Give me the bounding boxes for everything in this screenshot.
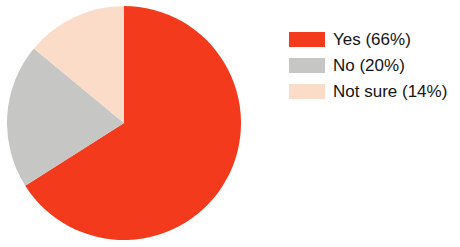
legend-item-yes[interactable]: Yes (66%) xyxy=(289,26,460,52)
pie-chart-svg xyxy=(7,6,241,240)
legend-item-no[interactable]: No (20%) xyxy=(289,52,460,78)
legend-label-yes: Yes (66%) xyxy=(333,31,411,48)
pie-slice-group xyxy=(7,6,241,240)
legend-swatch-yes xyxy=(289,32,325,47)
chart-legend: Yes (66%) No (20%) Not sure (14%) xyxy=(289,26,460,104)
pie-chart-plot-area xyxy=(7,6,241,240)
legend-label-no: No (20%) xyxy=(333,57,405,74)
legend-swatch-no xyxy=(289,58,325,73)
legend-item-not-sure[interactable]: Not sure (14%) xyxy=(289,78,460,104)
legend-label-not-sure: Not sure (14%) xyxy=(333,83,447,100)
legend-swatch-not-sure xyxy=(289,84,325,99)
pie-chart-figure: Yes (66%) No (20%) Not sure (14%) xyxy=(0,0,460,247)
